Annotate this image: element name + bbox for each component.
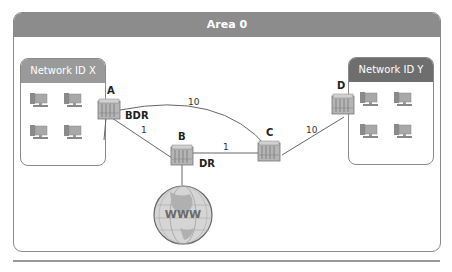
link-a-b — [112, 118, 172, 158]
network-x-hosts — [30, 93, 82, 139]
router-c-label: C — [266, 127, 273, 138]
cost-b-c: 1 — [223, 142, 229, 152]
link-a-network-x — [104, 118, 106, 140]
link-c-d — [282, 117, 344, 155]
router-b-role: DR — [199, 158, 215, 169]
router-a-label: A — [107, 85, 115, 96]
network-y-hosts — [360, 92, 412, 138]
router-d-icon[interactable] — [332, 94, 354, 114]
router-d-label: D — [337, 80, 345, 91]
topology-diagram — [0, 0, 452, 272]
router-b-icon[interactable] — [171, 145, 193, 165]
cost-a-b: 1 — [141, 125, 147, 135]
router-b-label: B — [178, 131, 186, 142]
cost-c-d: 10 — [306, 125, 317, 135]
cost-a-c: 10 — [188, 97, 199, 107]
router-c-icon[interactable] — [258, 141, 280, 161]
router-a-icon[interactable] — [98, 99, 120, 119]
internet-label: WWW — [163, 208, 203, 221]
bottom-divider — [13, 260, 440, 262]
router-a-role: BDR — [125, 110, 149, 121]
